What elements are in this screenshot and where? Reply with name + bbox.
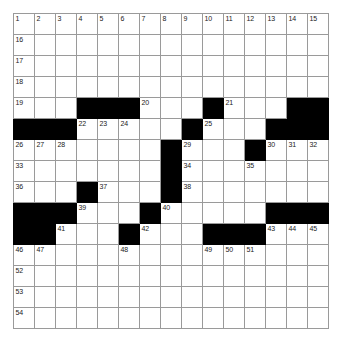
- crossword-cell[interactable]: [119, 308, 140, 329]
- crossword-cell[interactable]: [182, 98, 203, 119]
- crossword-cell[interactable]: [287, 161, 308, 182]
- crossword-cell[interactable]: 27: [35, 140, 56, 161]
- crossword-cell[interactable]: [140, 182, 161, 203]
- crossword-cell[interactable]: [245, 98, 266, 119]
- crossword-cell[interactable]: [77, 245, 98, 266]
- crossword-cell[interactable]: [287, 56, 308, 77]
- crossword-cell[interactable]: 10: [203, 14, 224, 35]
- crossword-cell[interactable]: [203, 308, 224, 329]
- crossword-cell[interactable]: [245, 77, 266, 98]
- crossword-cell[interactable]: [140, 266, 161, 287]
- crossword-cell[interactable]: 17: [14, 56, 35, 77]
- crossword-cell[interactable]: [266, 98, 287, 119]
- crossword-cell[interactable]: [35, 77, 56, 98]
- crossword-cell[interactable]: [308, 35, 329, 56]
- crossword-cell[interactable]: [203, 77, 224, 98]
- crossword-cell[interactable]: [98, 287, 119, 308]
- crossword-cell[interactable]: 54: [14, 308, 35, 329]
- crossword-cell[interactable]: [266, 287, 287, 308]
- crossword-cell[interactable]: 12: [245, 14, 266, 35]
- crossword-cell[interactable]: [77, 224, 98, 245]
- crossword-cell[interactable]: [224, 119, 245, 140]
- crossword-cell[interactable]: [56, 56, 77, 77]
- crossword-cell[interactable]: [266, 266, 287, 287]
- crossword-cell[interactable]: 48: [119, 245, 140, 266]
- crossword-cell[interactable]: [77, 308, 98, 329]
- crossword-cell[interactable]: [203, 203, 224, 224]
- crossword-cell[interactable]: 18: [14, 77, 35, 98]
- crossword-cell[interactable]: [161, 56, 182, 77]
- crossword-cell[interactable]: [287, 182, 308, 203]
- crossword-cell[interactable]: 43: [266, 224, 287, 245]
- crossword-cell[interactable]: [182, 308, 203, 329]
- crossword-cell[interactable]: 24: [119, 119, 140, 140]
- crossword-cell[interactable]: 32: [308, 140, 329, 161]
- crossword-cell[interactable]: [140, 119, 161, 140]
- crossword-cell[interactable]: 30: [266, 140, 287, 161]
- crossword-cell[interactable]: [308, 308, 329, 329]
- crossword-cell[interactable]: [182, 245, 203, 266]
- crossword-cell[interactable]: [35, 98, 56, 119]
- crossword-cell[interactable]: [161, 287, 182, 308]
- crossword-cell[interactable]: [287, 308, 308, 329]
- crossword-cell[interactable]: [119, 161, 140, 182]
- crossword-cell[interactable]: [35, 266, 56, 287]
- crossword-cell[interactable]: 15: [308, 14, 329, 35]
- crossword-cell[interactable]: 36: [14, 182, 35, 203]
- crossword-cell[interactable]: [224, 35, 245, 56]
- crossword-cell[interactable]: [245, 182, 266, 203]
- crossword-cell[interactable]: [245, 308, 266, 329]
- crossword-cell[interactable]: [308, 77, 329, 98]
- crossword-cell[interactable]: [161, 245, 182, 266]
- crossword-cell[interactable]: [161, 119, 182, 140]
- crossword-cell[interactable]: 21: [224, 98, 245, 119]
- crossword-cell[interactable]: 38: [182, 182, 203, 203]
- crossword-cell[interactable]: 6: [119, 14, 140, 35]
- crossword-cell[interactable]: [182, 224, 203, 245]
- crossword-cell[interactable]: [203, 266, 224, 287]
- crossword-cell[interactable]: 33: [14, 161, 35, 182]
- crossword-cell[interactable]: [224, 161, 245, 182]
- crossword-cell[interactable]: 31: [287, 140, 308, 161]
- crossword-cell[interactable]: [161, 77, 182, 98]
- crossword-cell[interactable]: [308, 266, 329, 287]
- crossword-cell[interactable]: [35, 308, 56, 329]
- crossword-cell[interactable]: [35, 35, 56, 56]
- crossword-cell[interactable]: [161, 98, 182, 119]
- crossword-cell[interactable]: [56, 161, 77, 182]
- crossword-cell[interactable]: [77, 161, 98, 182]
- crossword-cell[interactable]: [308, 182, 329, 203]
- crossword-cell[interactable]: [287, 266, 308, 287]
- crossword-cell[interactable]: 47: [35, 245, 56, 266]
- crossword-cell[interactable]: [56, 266, 77, 287]
- crossword-cell[interactable]: [308, 287, 329, 308]
- crossword-cell[interactable]: [35, 182, 56, 203]
- crossword-cell[interactable]: [182, 203, 203, 224]
- crossword-cell[interactable]: [35, 56, 56, 77]
- crossword-cell[interactable]: [98, 77, 119, 98]
- crossword-cell[interactable]: 20: [140, 98, 161, 119]
- crossword-cell[interactable]: [140, 77, 161, 98]
- crossword-cell[interactable]: [308, 245, 329, 266]
- crossword-cell[interactable]: [56, 98, 77, 119]
- crossword-cell[interactable]: [35, 287, 56, 308]
- crossword-cell[interactable]: [77, 287, 98, 308]
- crossword-cell[interactable]: [266, 161, 287, 182]
- crossword-cell[interactable]: 52: [14, 266, 35, 287]
- crossword-cell[interactable]: 5: [98, 14, 119, 35]
- crossword-cell[interactable]: 23: [98, 119, 119, 140]
- crossword-cell[interactable]: 51: [245, 245, 266, 266]
- crossword-cell[interactable]: [119, 140, 140, 161]
- crossword-cell[interactable]: [140, 140, 161, 161]
- crossword-cell[interactable]: [119, 203, 140, 224]
- crossword-cell[interactable]: [98, 266, 119, 287]
- crossword-cell[interactable]: [224, 56, 245, 77]
- crossword-cell[interactable]: [35, 161, 56, 182]
- crossword-cell[interactable]: [98, 203, 119, 224]
- crossword-cell[interactable]: [140, 245, 161, 266]
- crossword-cell[interactable]: 16: [14, 35, 35, 56]
- crossword-cell[interactable]: [224, 77, 245, 98]
- crossword-cell[interactable]: [77, 56, 98, 77]
- crossword-cell[interactable]: [98, 245, 119, 266]
- crossword-cell[interactable]: [140, 308, 161, 329]
